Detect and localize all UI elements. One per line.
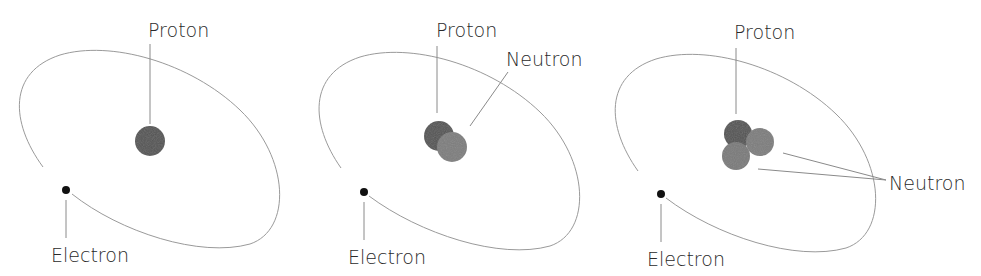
electron-particle <box>360 188 368 196</box>
neutron-particle <box>437 132 467 162</box>
proton-label: Proton <box>734 21 795 43</box>
neutron-label: Neutron <box>506 48 582 70</box>
atom-diagram: Proton Electron Proton Neutron Electron … <box>0 0 981 276</box>
electron-particle <box>62 186 70 194</box>
neutron-particle <box>722 142 750 170</box>
proton-label: Proton <box>148 19 209 41</box>
neutron-leader-line <box>470 72 508 126</box>
neutron-label: Neutron <box>889 172 965 194</box>
panel-tritium: Proton Neutron Electron <box>615 21 965 270</box>
proton-particle <box>135 126 165 156</box>
neutron-particle <box>746 128 774 156</box>
electron-label: Electron <box>51 244 129 266</box>
electron-label: Electron <box>647 248 725 270</box>
panel-hydrogen: Proton Electron <box>19 19 279 266</box>
electron-label: Electron <box>348 246 426 268</box>
panel-deuterium: Proton Neutron Electron <box>319 19 582 268</box>
proton-label: Proton <box>436 19 497 41</box>
electron-particle <box>657 190 665 198</box>
